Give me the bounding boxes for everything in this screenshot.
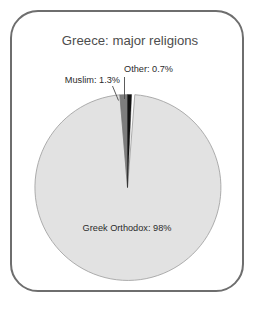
chart-canvas: Greece: major religions Muslim: 1.3% Oth… — [0, 0, 254, 309]
slice-label-muslim: Muslim: 1.3% — [65, 75, 120, 85]
slice-label-greek-orthodox: Greek Orthodox: 98% — [83, 223, 172, 233]
page-title: Greece: major religions — [62, 33, 199, 48]
pie-chart-figure: Greece: major religions Muslim: 1.3% Oth… — [0, 0, 254, 309]
slice-label-other: Other: 0.7% — [124, 64, 173, 74]
